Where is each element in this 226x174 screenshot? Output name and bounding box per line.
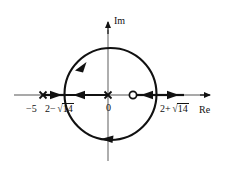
zero-marker: [129, 91, 136, 98]
real-axis-label: Re: [199, 105, 210, 115]
arrow-left-inner-left: [73, 91, 85, 99]
pole-label-minus-five: −5: [26, 104, 37, 114]
origin-label: 0: [106, 103, 111, 113]
left-root-prefix: 2−: [45, 103, 56, 114]
arrow-right-outer-right: [167, 91, 179, 99]
locus-arrow-bottom: [101, 136, 114, 144]
imaginary-axis-label: Im: [114, 16, 125, 26]
left-root-radical: √14: [56, 103, 74, 114]
root-locus-plot: [0, 0, 226, 174]
arrow-right-outer-left: [50, 91, 62, 99]
right-root-prefix: 2+: [160, 103, 171, 114]
tick-label-right-root: 2+√14: [160, 103, 189, 114]
right-root-radical: √14: [171, 103, 189, 114]
root-locus-figure: Im Re 0 −5 2−√14 2+√14: [0, 0, 226, 174]
arrow-left-inner-right: [141, 91, 153, 99]
tick-label-left-root: 2−√14: [45, 103, 74, 114]
